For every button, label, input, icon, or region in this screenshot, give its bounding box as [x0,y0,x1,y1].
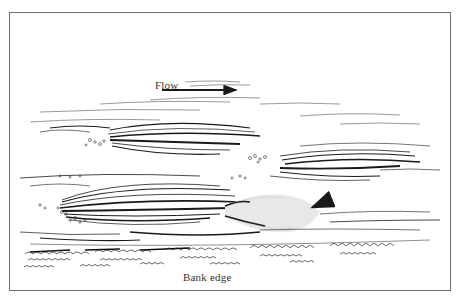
eddy-lower-left [20,174,240,224]
bank-edge-label: Bank edge [183,271,232,283]
spray-plume [225,194,320,232]
counter-current-arrow-icon [313,200,330,207]
eddy-upper-left [40,123,260,154]
bank-grass [24,244,394,268]
upper-streamlines [30,81,420,124]
eddy-right [270,143,440,181]
river-flow-illustration [0,0,457,301]
flow-label: Flow [155,79,178,91]
